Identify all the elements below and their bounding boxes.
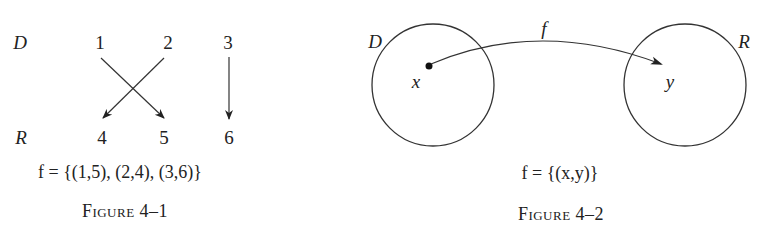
range-label: R	[738, 32, 750, 51]
arrow-label: f	[541, 19, 546, 38]
domain-element-3: 3	[223, 33, 233, 52]
domain-label: D	[368, 32, 382, 51]
range-set-circle	[624, 24, 746, 146]
range-point-label: y	[666, 72, 674, 91]
range-label: R	[15, 128, 27, 147]
domain-element-1: 1	[95, 33, 105, 52]
figure-4-2: D R f x y f = {(x,y)} Figure 4–2	[330, 0, 774, 227]
range-element-5: 5	[159, 128, 169, 147]
function-formula: f = {(1,5), (2,4), (3,6)}	[38, 163, 202, 181]
domain-label: D	[13, 33, 27, 52]
figure-caption: Figure 4–2	[518, 205, 604, 223]
range-element-4: 4	[97, 128, 107, 147]
function-formula: f = {(x,y)}	[522, 164, 599, 182]
set-diagram	[330, 0, 774, 227]
domain-point-label: x	[412, 72, 420, 91]
range-element-6: 6	[224, 128, 234, 147]
function-arrow	[431, 41, 661, 64]
domain-set-circle	[372, 24, 494, 146]
mapping-arrows	[0, 0, 300, 227]
domain-element-2: 2	[163, 33, 173, 52]
figure-4-1: D 1 2 3 R 4 5 6 f = {(1,5), (2,4), (3,6)…	[0, 0, 300, 227]
figure-caption: Figure 4–1	[82, 202, 168, 220]
